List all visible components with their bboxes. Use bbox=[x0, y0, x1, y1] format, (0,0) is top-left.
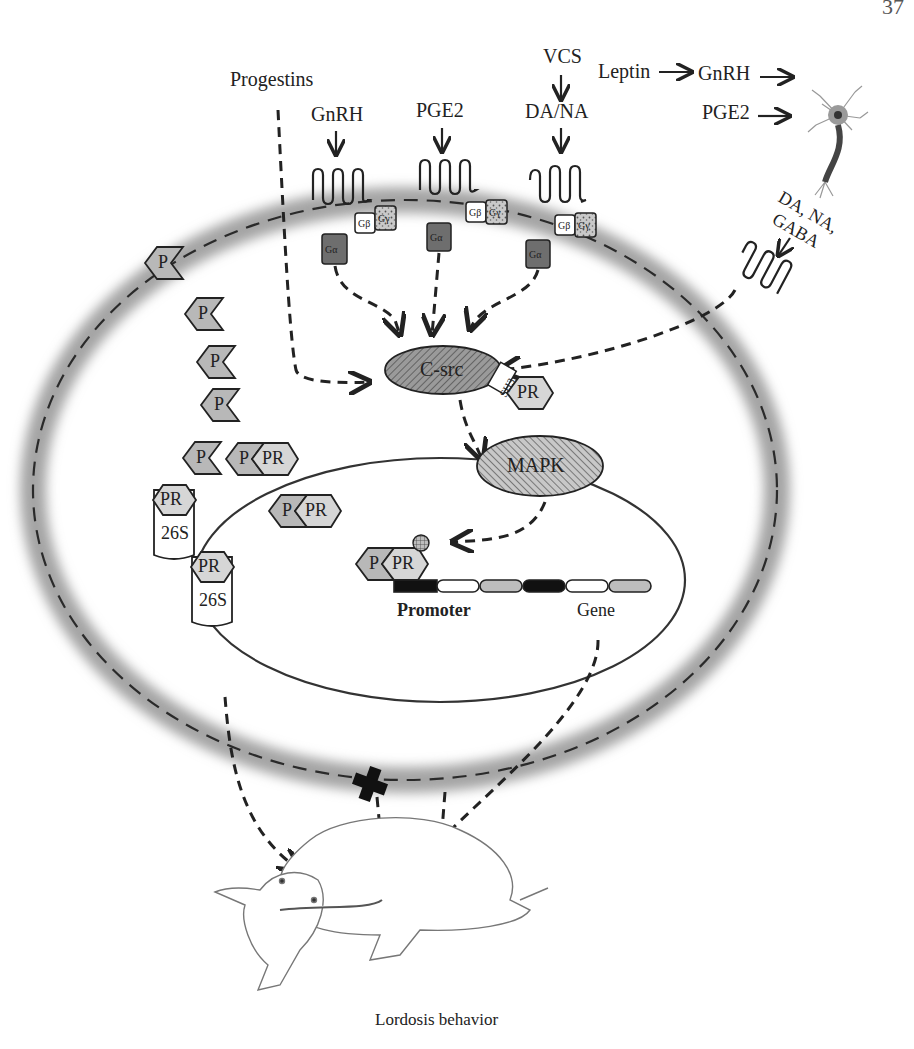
galpha3-arrow bbox=[470, 270, 538, 330]
phosphate-icon bbox=[413, 535, 429, 551]
ligand-label: P bbox=[210, 351, 220, 372]
g-gamma-label-3: Gγ bbox=[578, 220, 590, 231]
galpha1-arrow bbox=[335, 266, 400, 335]
diagram-canvas: Gβ Gγ Gα Gβ Gγ Gα Gβ Gγ Gα bbox=[0, 0, 914, 1049]
g-alpha-label-2: Gα bbox=[430, 232, 443, 243]
receptor-label: PR bbox=[305, 500, 327, 521]
progestins-label: Progestins bbox=[230, 68, 313, 91]
gene-label: Gene bbox=[577, 600, 615, 621]
g-gamma-label-1: Gγ bbox=[378, 213, 390, 224]
gnrh-ligand-label: GnRH bbox=[311, 103, 363, 126]
g-alpha-label-1: Gα bbox=[325, 244, 338, 255]
ligand-label: P bbox=[239, 448, 249, 469]
csrc-label: C-src bbox=[420, 358, 463, 381]
g-beta-label-2: Gβ bbox=[469, 207, 481, 218]
leptin-label: Leptin bbox=[598, 60, 650, 83]
g-beta-label-1: Gβ bbox=[358, 218, 370, 229]
g-alpha-label-3: Gα bbox=[529, 249, 542, 260]
receptor-label: PR bbox=[198, 556, 220, 577]
receptor-label: PR bbox=[160, 489, 182, 510]
ligand-label: P bbox=[198, 303, 208, 324]
gnrh-neuron-label: GnRH bbox=[698, 62, 750, 85]
ligand-label: P bbox=[158, 252, 168, 273]
pge2-neuron-label: PGE2 bbox=[702, 101, 750, 124]
promoter-label: Promoter bbox=[397, 600, 471, 621]
receptor-label: PR bbox=[517, 382, 539, 403]
diagram-graphics: Gβ Gγ Gα Gβ Gγ Gα Gβ Gγ Gα bbox=[0, 0, 914, 1049]
csrc-to-mapk-arrow bbox=[460, 400, 482, 460]
gaba-arrow bbox=[778, 238, 790, 256]
g-gamma-label-2: Gγ bbox=[489, 207, 501, 218]
ligand-label: P bbox=[369, 553, 379, 574]
dana-label: DA/NA bbox=[525, 100, 588, 123]
vcs-label: VCS bbox=[543, 45, 582, 68]
g-beta-label-3: Gβ bbox=[558, 220, 570, 231]
dana-receptor-icon bbox=[530, 166, 586, 202]
receptor-label: PR bbox=[262, 448, 284, 469]
receptor-label: PR bbox=[392, 553, 414, 574]
ligand-label: P bbox=[214, 394, 224, 415]
galpha2-arrow bbox=[432, 253, 439, 335]
pge2-ligand-label: PGE2 bbox=[416, 99, 464, 122]
ligand-label: P bbox=[282, 500, 292, 521]
mapk-label: MAPK bbox=[507, 454, 565, 477]
page-number: 37 bbox=[882, 0, 904, 20]
degradation-arrow bbox=[225, 697, 300, 870]
neuron-icon bbox=[808, 86, 868, 198]
lordosis-behavior-label: Lordosis behavior bbox=[375, 1010, 498, 1030]
ligand-label: P bbox=[196, 447, 206, 468]
proteasome-label: 26S bbox=[161, 523, 189, 544]
proteasome-label: 26S bbox=[199, 590, 227, 611]
rat-illustration bbox=[215, 818, 548, 990]
